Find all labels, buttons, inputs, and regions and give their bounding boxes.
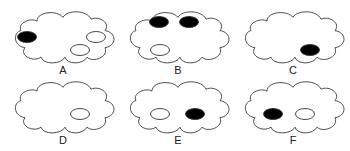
filled-hole — [186, 109, 205, 120]
cloud-shape — [120, 78, 236, 138]
filled-hole — [264, 109, 283, 120]
cloud-shape — [235, 8, 350, 68]
filled-hole — [301, 45, 320, 56]
filled-hole — [18, 32, 37, 43]
empty-hole — [151, 45, 170, 56]
panel-d: D — [5, 78, 121, 151]
panel-label: C — [235, 64, 350, 76]
empty-hole — [71, 45, 90, 56]
empty-hole — [296, 109, 315, 120]
cloud-shape — [235, 78, 350, 138]
cloud-shape — [5, 78, 121, 138]
panel-label: A — [5, 64, 121, 76]
panel-c: C — [235, 8, 350, 83]
panel-label: B — [120, 64, 236, 76]
panel-e: E — [120, 78, 236, 151]
empty-hole — [71, 109, 90, 120]
panel-label: D — [5, 134, 121, 146]
filled-hole — [150, 17, 169, 28]
panel-a: A — [5, 8, 121, 83]
cloud-shape — [5, 8, 121, 68]
filled-hole — [180, 17, 199, 28]
panel-b: B — [120, 8, 236, 83]
panel-label: E — [120, 134, 236, 146]
panel-f: F — [235, 78, 350, 151]
empty-hole — [151, 109, 170, 120]
cloud-shape — [120, 8, 236, 68]
empty-hole — [87, 32, 106, 43]
panel-label: F — [235, 134, 350, 146]
